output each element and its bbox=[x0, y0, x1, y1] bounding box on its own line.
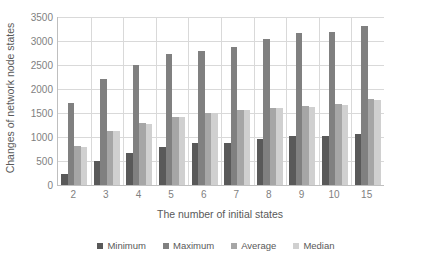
y-axis-tick-label: 2500 bbox=[31, 60, 53, 71]
legend-label: Average bbox=[241, 240, 276, 251]
legend-label: Median bbox=[303, 240, 334, 251]
bar-median bbox=[81, 147, 88, 185]
y-axis-title-text: Changes of network node states bbox=[4, 22, 16, 173]
bar-median bbox=[276, 108, 283, 185]
bar-set bbox=[91, 17, 124, 185]
y-axis-tick-labels: 0500100015002000250030003500 bbox=[18, 10, 56, 190]
bar-group bbox=[58, 17, 91, 185]
bar-set bbox=[123, 17, 156, 185]
x-axis-tick-label: 5 bbox=[155, 189, 188, 205]
chart-legend: MinimumMaximumAverageMedian bbox=[0, 240, 432, 251]
x-axis-tick-label: 3 bbox=[90, 189, 123, 205]
bar-set bbox=[58, 17, 91, 185]
y-axis-tick-label: 1500 bbox=[31, 108, 53, 119]
legend-item[interactable]: Maximum bbox=[163, 240, 214, 251]
x-axis-tick-labels: 234567891015 bbox=[57, 189, 383, 205]
y-axis-tick-label: 1000 bbox=[31, 132, 53, 143]
bar-set bbox=[221, 17, 254, 185]
x-axis-tick-label: 9 bbox=[285, 189, 318, 205]
bar-group bbox=[188, 17, 221, 185]
bar-median bbox=[309, 107, 316, 185]
y-axis-title: Changes of network node states bbox=[0, 0, 20, 195]
bar-group bbox=[319, 17, 352, 185]
x-axis-tick-label: 2 bbox=[57, 189, 90, 205]
bar-median bbox=[113, 131, 120, 185]
bar-group bbox=[351, 17, 384, 185]
x-axis-tick-label: 10 bbox=[318, 189, 351, 205]
bar-group bbox=[221, 17, 254, 185]
legend-item[interactable]: Median bbox=[293, 240, 334, 251]
bar-median bbox=[179, 117, 186, 185]
legend-label: Maximum bbox=[173, 240, 214, 251]
y-axis-tick-label: 3500 bbox=[31, 12, 53, 23]
plot-area bbox=[57, 17, 384, 186]
legend-swatch-icon bbox=[293, 243, 299, 249]
bar-set bbox=[188, 17, 221, 185]
y-axis-tick-label: 3000 bbox=[31, 36, 53, 47]
x-axis-tick-label: 4 bbox=[122, 189, 155, 205]
legend-swatch-icon bbox=[231, 243, 237, 249]
bar-median bbox=[342, 105, 349, 185]
bar-chart-figure: Changes of network node states 050010001… bbox=[0, 0, 432, 271]
x-axis-tick-label: 8 bbox=[253, 189, 286, 205]
bar-set bbox=[254, 17, 287, 185]
legend-item[interactable]: Minimum bbox=[97, 240, 146, 251]
bar-group bbox=[286, 17, 319, 185]
bar-group bbox=[156, 17, 189, 185]
bar-group bbox=[254, 17, 287, 185]
bar-group bbox=[91, 17, 124, 185]
bar-median bbox=[374, 100, 381, 185]
legend-label: Minimum bbox=[107, 240, 146, 251]
bar-median bbox=[146, 124, 153, 185]
bar-median bbox=[211, 113, 218, 185]
bar-group bbox=[123, 17, 156, 185]
x-axis-tick-label: 15 bbox=[350, 189, 383, 205]
x-axis-title: The number of initial states bbox=[57, 208, 383, 220]
bar-set bbox=[286, 17, 319, 185]
bar-groups bbox=[58, 17, 384, 185]
x-axis-tick-label: 6 bbox=[187, 189, 220, 205]
x-axis-tick-label: 7 bbox=[220, 189, 253, 205]
bar-median bbox=[244, 110, 251, 185]
bar-set bbox=[156, 17, 189, 185]
y-axis-tick-label: 2000 bbox=[31, 84, 53, 95]
y-axis-tick-label: 0 bbox=[47, 180, 53, 191]
bar-set bbox=[351, 17, 384, 185]
legend-swatch-icon bbox=[97, 243, 103, 249]
bar-set bbox=[319, 17, 352, 185]
y-axis-tick-label: 500 bbox=[36, 156, 53, 167]
legend-swatch-icon bbox=[163, 243, 169, 249]
legend-item[interactable]: Average bbox=[231, 240, 276, 251]
